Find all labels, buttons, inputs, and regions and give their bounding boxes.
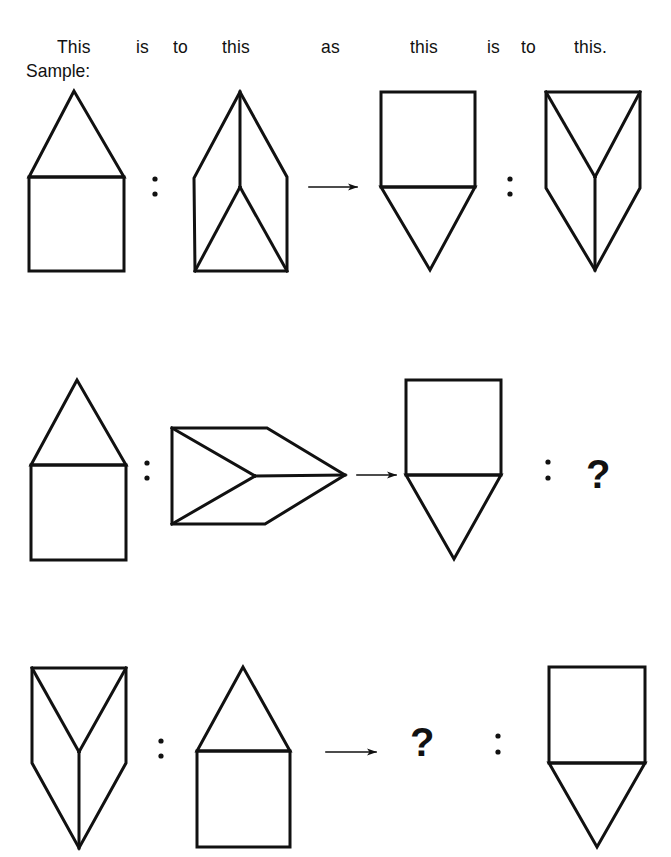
problem-1-prism-right-shape — [172, 428, 345, 524]
analogy-figures — [0, 0, 671, 857]
problem-2-prism-down-shape — [32, 668, 126, 848]
sample-row — [29, 91, 640, 271]
sample-prism-up-shape — [194, 92, 287, 271]
sample-house-shape — [29, 91, 124, 271]
problem-2-square-triangle-shape — [549, 667, 645, 847]
sample-colon-2 — [507, 176, 512, 196]
problem-1-square-triangle-shape — [406, 380, 501, 559]
sample-square-triangle-shape — [381, 92, 475, 270]
problem-2-house-shape — [197, 667, 290, 847]
problem-1-colon-2 — [545, 459, 550, 480]
sample-prism-down-shape — [546, 92, 640, 270]
problem-1-unknown-answer: ? — [586, 454, 610, 494]
problem-2-colon-2 — [495, 733, 500, 754]
problem-1-house-shape — [31, 380, 126, 560]
problem-2-colon-1 — [158, 738, 163, 758]
problem-2-unknown-answer: ? — [410, 722, 434, 762]
problem-1-row — [31, 380, 551, 560]
problem-2-row — [32, 667, 645, 848]
problem-1-colon-1 — [144, 460, 149, 480]
sample-colon-1 — [152, 176, 157, 196]
